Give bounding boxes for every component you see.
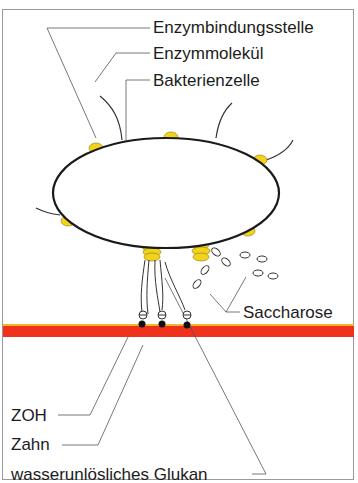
tooth-surface (3, 324, 354, 337)
label-insoluble-glucan: wasserunlösliches Glukan (11, 466, 208, 483)
label-tooth: Zahn (11, 436, 50, 453)
label-bacterial-cell: Bakterienzelle (153, 72, 260, 89)
label-sucrose: Saccharose (243, 304, 333, 321)
negative-charges (139, 311, 191, 319)
glucan-strands (141, 260, 185, 314)
label-enzyme-molecule: Enzymmolekül (153, 45, 264, 62)
label-enzyme-binding-site: Enzymbindungsstelle (153, 19, 314, 36)
bacterial-cell (53, 138, 279, 248)
label-zoh: ZOH (11, 407, 47, 424)
